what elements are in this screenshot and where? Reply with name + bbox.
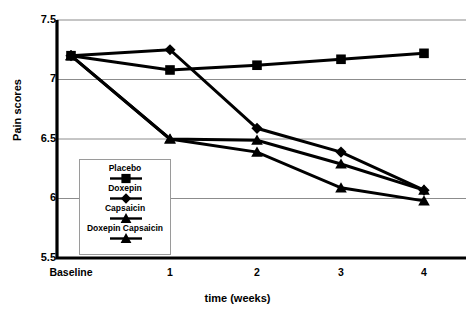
legend-label-placebo: Placebo (80, 164, 170, 173)
pain-scores-line-chart: 7.5 7 6.5 6 5.5 Pain scores Baseline 1 2… (0, 0, 475, 315)
x-tick-label-3: 3 (338, 266, 344, 278)
legend-label-capsaicin: Capsaicin (80, 204, 170, 213)
data-point-marker (335, 146, 346, 157)
x-tick-label-1: 1 (167, 266, 173, 278)
x-tick-label-2: 2 (254, 266, 260, 278)
data-point-marker (252, 60, 262, 70)
legend-marker-placebo (80, 173, 170, 184)
x-axis-title: time (weeks) (0, 292, 475, 304)
legend-marker-capsaicin (80, 213, 170, 224)
x-tick-label-baseline: Baseline (49, 266, 92, 278)
legend-marker-doxepin-capsaicin (80, 233, 170, 244)
legend-marker-doxepin (80, 193, 170, 204)
x-tick-label-4: 4 (421, 266, 427, 278)
legend-label-doxepin: Doxepin (80, 184, 170, 193)
data-point-marker (419, 49, 429, 59)
legend-label-doxepin-capsaicin: Doxepin Capsaicin (80, 224, 170, 233)
chart-legend: Placebo Doxepin Capsaicin (79, 159, 171, 255)
data-point-marker (165, 65, 175, 75)
series-line (71, 53, 424, 70)
data-point-marker (336, 54, 346, 64)
